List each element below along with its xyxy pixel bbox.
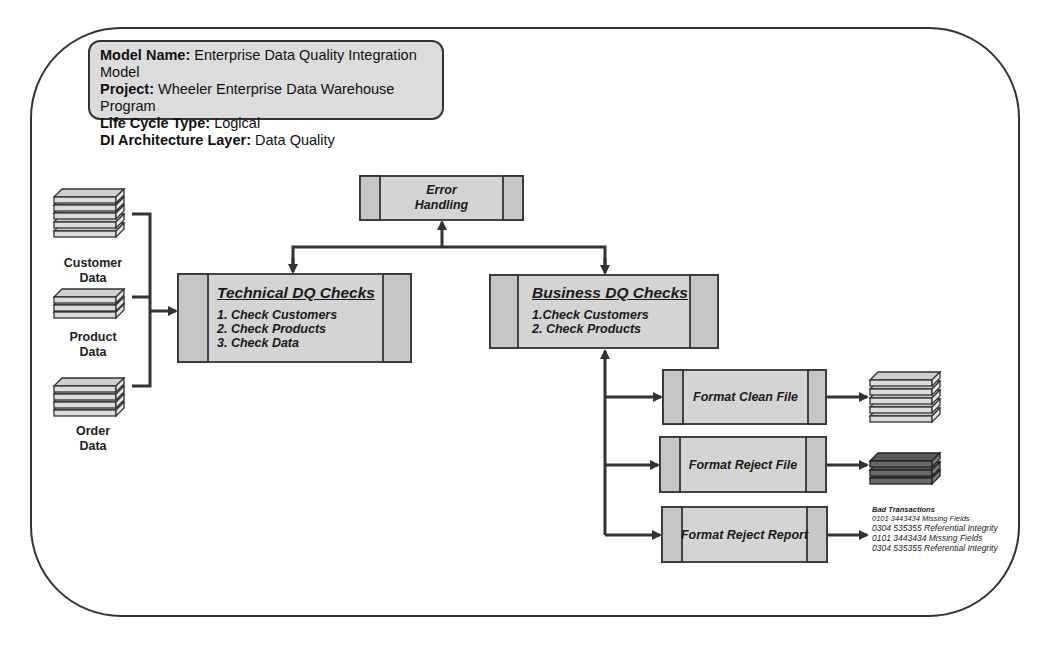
- clean-file-stack-icon: [870, 372, 940, 422]
- technical-dq-content: Technical DQ Checks 1. Check Customers 2…: [217, 284, 375, 350]
- project-row: Project: Wheeler Enterprise Data Warehou…: [100, 81, 432, 115]
- model-info-header: Model Name: Enterprise Data Quality Inte…: [88, 40, 444, 120]
- order-data-label: OrderData: [48, 424, 138, 454]
- format-reject-report-label: Format Reject Report: [682, 507, 807, 562]
- business-dq-item: 2. Check Products: [532, 322, 688, 336]
- technical-dq-title: Technical DQ Checks: [217, 284, 375, 302]
- business-dq-item: 1.Check Customers: [532, 308, 688, 322]
- error-handling-label: Error Handling: [380, 176, 503, 220]
- customer-data-label: CustomerData: [48, 256, 138, 286]
- order-data-stack-icon: [54, 378, 124, 416]
- customer-data-stack-icon: [54, 189, 124, 237]
- technical-dq-item: 2. Check Products: [217, 322, 375, 336]
- bad-transaction-row: 0101 3443434 Missing Fields: [872, 533, 998, 543]
- product-data-stack-icon: [54, 289, 124, 318]
- bad-transaction-row: 0304 535355 Referential Integrity: [872, 523, 998, 533]
- error-handling-connectors: [293, 222, 605, 273]
- business-dq-content: Business DQ Checks 1.Check Customers 2. …: [532, 284, 688, 336]
- di-architecture-layer-row: DI Architecture Layer: Data Quality: [100, 132, 432, 149]
- business-dq-title: Business DQ Checks: [532, 284, 688, 302]
- bad-transactions-title: Bad Transactions: [872, 506, 998, 514]
- life-cycle-type-row: Life Cycle Type: Logical: [100, 115, 432, 132]
- model-name-row: Model Name: Enterprise Data Quality Inte…: [100, 47, 432, 81]
- bad-transactions-report: Bad Transactions 0101 3443434 Missing Fi…: [872, 506, 998, 553]
- product-data-label: ProductData: [48, 330, 138, 360]
- technical-dq-item: 3. Check Data: [217, 336, 375, 350]
- technical-dq-item: 1. Check Customers: [217, 308, 375, 322]
- source-connectors: [132, 214, 176, 386]
- bad-transaction-row: 0101 3443434 Missing Fields: [872, 514, 998, 523]
- format-reject-file-label: Format Reject File: [680, 437, 806, 492]
- format-clean-file-label: Format Clean File: [683, 370, 808, 424]
- bad-transaction-row: 0304 535355 Referential Integrity: [872, 543, 998, 553]
- reject-file-stack-icon: [870, 453, 940, 484]
